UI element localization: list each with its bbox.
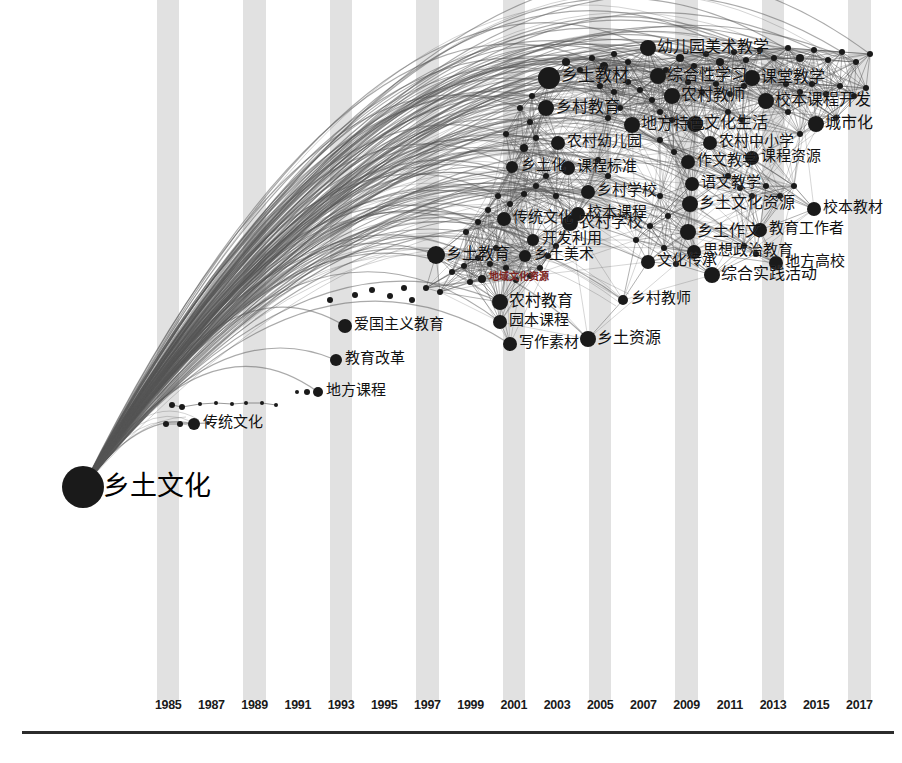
graph-node-minor[interactable]	[449, 269, 455, 275]
graph-node[interactable]	[618, 295, 628, 305]
node-label[interactable]: 地方课程	[326, 383, 386, 398]
graph-node-minor[interactable]	[463, 229, 469, 235]
graph-node-minor[interactable]	[589, 55, 595, 61]
node-label[interactable]: 地方高校	[785, 254, 845, 269]
graph-node-minor[interactable]	[304, 389, 310, 395]
node-label[interactable]: 课堂教学	[761, 69, 825, 85]
graph-node[interactable]	[538, 67, 560, 89]
node-label[interactable]: 校本教材	[823, 200, 883, 215]
graph-node-minor[interactable]	[763, 183, 769, 189]
graph-node-minor[interactable]	[771, 55, 777, 61]
graph-node[interactable]	[703, 136, 717, 150]
graph-node[interactable]	[680, 224, 696, 240]
graph-node[interactable]	[640, 40, 656, 56]
graph-node-minor[interactable]	[611, 51, 617, 57]
graph-node[interactable]	[492, 294, 508, 310]
node-label[interactable]: 幼儿园美术教学	[657, 39, 769, 55]
graph-node-minor[interactable]	[260, 401, 264, 405]
graph-node-minor[interactable]	[533, 135, 539, 141]
graph-node[interactable]	[704, 267, 720, 283]
graph-node[interactable]	[330, 354, 342, 366]
graph-node[interactable]	[807, 202, 821, 216]
graph-node-minor[interactable]	[553, 193, 559, 199]
graph-node-minor[interactable]	[230, 402, 234, 406]
node-label[interactable]: 乡土文化资源	[699, 195, 795, 211]
graph-node-minor[interactable]	[637, 87, 643, 93]
graph-node[interactable]	[478, 275, 486, 283]
node-label[interactable]: 语文教学	[701, 175, 761, 190]
graph-node-minor[interactable]	[671, 149, 677, 155]
graph-node-minor[interactable]	[401, 285, 407, 291]
graph-node[interactable]	[681, 155, 695, 169]
node-label[interactable]: 乡村教育	[556, 99, 620, 115]
graph-node-minor[interactable]	[521, 191, 527, 197]
graph-node-minor[interactable]	[796, 54, 804, 62]
graph-node-minor[interactable]	[409, 297, 415, 303]
graph-node-minor[interactable]	[839, 49, 845, 55]
graph-node[interactable]	[551, 136, 565, 150]
graph-node-minor[interactable]	[633, 237, 639, 243]
graph-node[interactable]	[338, 319, 352, 333]
graph-node-minor[interactable]	[811, 47, 817, 53]
graph-node-minor[interactable]	[437, 289, 443, 295]
graph-node-minor[interactable]	[791, 183, 797, 189]
graph-node-minor[interactable]	[853, 59, 859, 65]
graph-node-minor[interactable]	[657, 137, 663, 143]
graph-node[interactable]	[506, 161, 518, 173]
node-label[interactable]: 综合性学习	[667, 67, 747, 83]
graph-node[interactable]	[650, 68, 666, 84]
node-label[interactable]: 园本课程	[509, 313, 569, 328]
graph-node-minor[interactable]	[649, 97, 655, 103]
graph-node-minor[interactable]	[461, 263, 467, 269]
node-label[interactable]: 地方特色	[641, 116, 705, 132]
node-label[interactable]: 农村教育	[509, 293, 573, 309]
node-label[interactable]: 地域文化资源	[489, 272, 549, 282]
graph-node-minor[interactable]	[177, 421, 183, 427]
graph-node-minor[interactable]	[387, 293, 393, 299]
graph-node-minor[interactable]	[785, 109, 791, 115]
node-label[interactable]: 写作素材	[519, 335, 579, 350]
graph-node-minor[interactable]	[825, 57, 831, 63]
node-label[interactable]: 课程资源	[761, 149, 821, 164]
graph-node-minor[interactable]	[475, 219, 481, 225]
graph-node-minor[interactable]	[179, 404, 185, 410]
node-label[interactable]: 教育改革	[345, 351, 405, 366]
graph-node[interactable]	[624, 117, 640, 133]
node-label[interactable]: 作文教学	[697, 153, 757, 168]
graph-node[interactable]	[503, 337, 517, 351]
graph-node-minor[interactable]	[495, 193, 501, 199]
graph-node[interactable]	[682, 196, 698, 212]
graph-node-minor[interactable]	[503, 131, 509, 137]
graph-node[interactable]	[538, 100, 554, 116]
graph-node[interactable]	[62, 466, 104, 508]
graph-node-minor[interactable]	[520, 144, 528, 152]
node-label[interactable]: 乡土美术	[534, 247, 594, 262]
graph-node[interactable]	[580, 331, 596, 347]
graph-node-minor[interactable]	[797, 131, 803, 137]
node-label[interactable]: 校本课程	[587, 205, 647, 220]
graph-node-minor[interactable]	[507, 201, 513, 207]
node-label[interactable]: 乡村教师	[631, 291, 691, 306]
graph-node-minor[interactable]	[743, 57, 749, 63]
graph-node[interactable]	[758, 93, 774, 109]
node-label[interactable]: 乡土作文	[697, 223, 761, 239]
node-label[interactable]: 农村教师	[681, 87, 745, 103]
graph-node-minor[interactable]	[369, 287, 375, 293]
node-label[interactable]: 教育工作者	[769, 221, 844, 236]
graph-node-minor[interactable]	[533, 183, 539, 189]
graph-node[interactable]	[685, 177, 699, 191]
graph-node-minor[interactable]	[423, 285, 429, 291]
graph-node-minor[interactable]	[274, 403, 278, 407]
graph-node-minor[interactable]	[529, 93, 535, 99]
graph-node[interactable]	[427, 246, 445, 264]
graph-node-minor[interactable]	[214, 401, 218, 405]
graph-node-minor[interactable]	[295, 390, 299, 394]
graph-node-minor[interactable]	[611, 89, 617, 95]
node-label[interactable]: 城市化	[825, 115, 873, 131]
graph-node-minor[interactable]	[244, 401, 248, 405]
graph-node-minor[interactable]	[198, 402, 202, 406]
graph-node-minor[interactable]	[785, 45, 791, 51]
node-label[interactable]: 开发利用	[542, 231, 602, 246]
graph-node-minor[interactable]	[837, 83, 843, 89]
node-label[interactable]: 乡土文化	[103, 472, 211, 499]
